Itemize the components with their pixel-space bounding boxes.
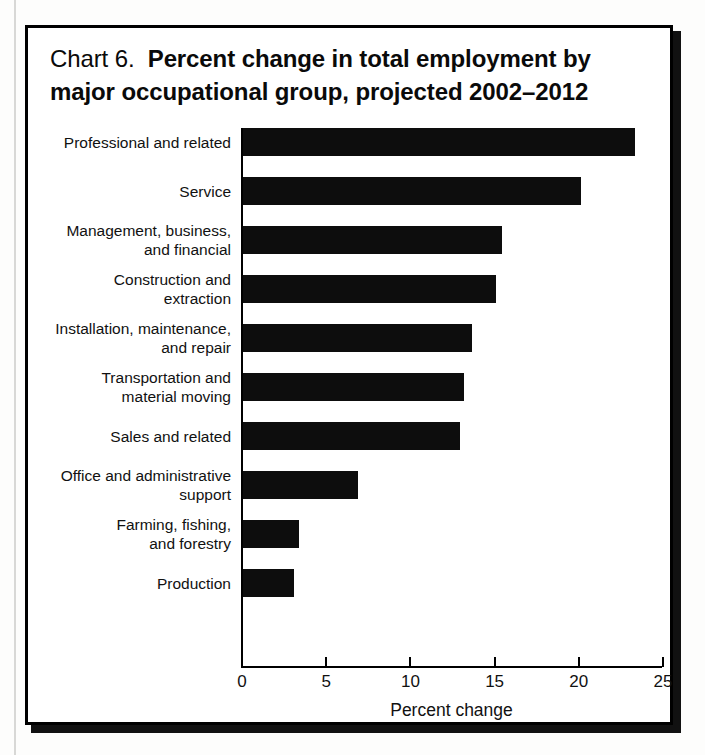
category-label-line: Professional and related: [28, 133, 231, 152]
x-axis-tick-label: 15: [485, 672, 504, 692]
x-axis-tick-label: 10: [401, 672, 420, 692]
x-axis-tick: [325, 657, 327, 667]
category-label-line: Production: [28, 574, 231, 593]
category-label: Office and administrativesupport: [28, 466, 237, 504]
x-axis-tick: [494, 657, 496, 667]
category-label: Installation, maintenance,and repair: [28, 319, 237, 357]
category-label: Service: [28, 182, 237, 201]
category-label-line: Sales and related: [28, 427, 231, 446]
x-axis-title: Percent change: [241, 700, 662, 721]
category-label-line: and repair: [28, 338, 231, 357]
chart-figure: Chart 6. Percent change in total employm…: [25, 25, 673, 725]
category-label-line: and forestry: [28, 534, 231, 553]
category-label-line: Transportation and: [28, 368, 231, 387]
category-label: Professional and related: [28, 133, 237, 152]
bar: [243, 373, 464, 401]
category-label: Transportation andmaterial moving: [28, 368, 237, 406]
bar: [243, 177, 581, 205]
chart-title: Chart 6. Percent change in total employm…: [50, 42, 650, 108]
category-label-line: Office and administrative: [28, 466, 231, 485]
x-axis-tick-label: 20: [569, 672, 588, 692]
x-axis-tick: [409, 657, 411, 667]
bar: [243, 128, 635, 156]
category-label-line: and financial: [28, 240, 231, 259]
bar: [243, 422, 460, 450]
category-label-line: support: [28, 485, 231, 504]
category-label: Production: [28, 574, 237, 593]
category-label-line: Farming, fishing,: [28, 515, 231, 534]
category-label-line: extraction: [28, 289, 231, 308]
bar: [243, 324, 472, 352]
category-label-line: Service: [28, 182, 231, 201]
x-axis-line: [241, 666, 662, 668]
x-axis-tick-label: 25: [654, 672, 673, 692]
category-label-line: Installation, maintenance,: [28, 319, 231, 338]
category-label-line: Management, business,: [28, 221, 231, 240]
bar: [243, 569, 294, 597]
category-label-line: material moving: [28, 387, 231, 406]
bar: [243, 471, 358, 499]
category-label: Management, business,and financial: [28, 221, 237, 259]
page-edge-artifact: [14, 0, 16, 755]
category-label: Construction andextraction: [28, 270, 237, 308]
chart-title-prefix: Chart 6.: [50, 45, 135, 72]
x-axis-tick-label: 0: [237, 672, 246, 692]
bar: [243, 275, 496, 303]
bar: [243, 520, 299, 548]
x-axis-tick: [662, 657, 664, 667]
bars-region: Percent change 0510152025: [241, 116, 676, 666]
x-axis-tick-label: 5: [321, 672, 330, 692]
plot-area: Professional and relatedServiceManagemen…: [28, 116, 676, 716]
category-label: Farming, fishing,and forestry: [28, 515, 237, 553]
category-label: Sales and related: [28, 427, 237, 446]
category-label-line: Construction and: [28, 270, 231, 289]
x-axis-tick: [578, 657, 580, 667]
bar: [243, 226, 502, 254]
